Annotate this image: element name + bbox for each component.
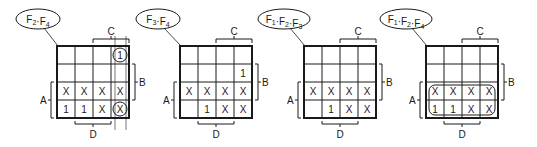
cell-3-3: X	[486, 104, 493, 115]
cell-3-1: 1	[450, 104, 456, 115]
kmap-diagram: F2·F41XXXX11XXCBADF3·F41XXXX1XXCBADF1·F2…	[0, 0, 537, 147]
cell-2-1: X	[328, 86, 335, 97]
cell-2-3: X	[117, 86, 124, 97]
b-brace	[132, 64, 138, 100]
cell-2-3: X	[364, 86, 371, 97]
kmap-4: F1·F2·F4XXXX11XXCBAD	[380, 9, 515, 140]
title-leader	[164, 28, 181, 46]
kmap-3: F1·F2·F3XXXX1XXCBAD	[258, 9, 393, 140]
d-brace	[322, 121, 358, 127]
cell-2-1: X	[204, 86, 211, 97]
cell-3-1: 1	[81, 104, 87, 115]
cell-3-2: X	[468, 104, 475, 115]
label-a: A	[409, 95, 416, 106]
kmap-2: F3·F41XXXX1XXCBAD	[136, 9, 269, 140]
label-a: A	[163, 95, 170, 106]
label-d: D	[89, 129, 96, 140]
b-brace	[379, 64, 385, 100]
c-brace	[216, 36, 252, 43]
d-brace	[198, 121, 234, 127]
label-a: A	[40, 95, 47, 106]
label-b: B	[386, 77, 393, 88]
cell-2-2: X	[222, 86, 229, 97]
label-b: B	[508, 77, 515, 88]
label-d: D	[458, 129, 465, 140]
cell-2-0: X	[186, 86, 193, 97]
cell-3-0: 1	[432, 104, 438, 115]
title-leader	[412, 28, 427, 46]
a-brace	[417, 82, 423, 118]
cell-3-3: X	[117, 104, 124, 115]
c-brace	[462, 36, 498, 43]
label-a: A	[287, 95, 294, 106]
b-brace	[255, 64, 261, 100]
cell-3-3: X	[364, 104, 371, 115]
title-leader	[290, 28, 305, 46]
label-c: C	[354, 26, 361, 37]
label-c: C	[230, 26, 237, 37]
cell-3-0: 1	[63, 104, 69, 115]
label-d: D	[336, 129, 343, 140]
cell-3-2: X	[346, 104, 353, 115]
cell-2-0: X	[432, 86, 439, 97]
b-brace	[501, 64, 507, 100]
cell-3-1: 1	[204, 104, 210, 115]
cell-3-1: 1	[328, 104, 334, 115]
cell-3-2: X	[222, 104, 229, 115]
cell-2-1: X	[81, 86, 88, 97]
cell-2-3: X	[486, 86, 493, 97]
title-leader	[44, 28, 58, 46]
c-brace	[93, 36, 129, 43]
cell-2-3: X	[240, 86, 247, 97]
cell-1-3: 1	[240, 68, 246, 79]
a-brace	[171, 82, 177, 118]
label-c: C	[107, 26, 114, 37]
label-b: B	[262, 77, 269, 88]
cell-0-3: 1	[117, 50, 123, 61]
a-brace	[295, 82, 301, 118]
cell-2-2: X	[346, 86, 353, 97]
cell-2-0: X	[310, 86, 317, 97]
a-brace	[48, 82, 54, 118]
d-brace	[75, 121, 111, 127]
cell-2-1: X	[450, 86, 457, 97]
label-b: B	[139, 77, 146, 88]
cell-2-2: X	[468, 86, 475, 97]
map-title: F3·F4	[146, 14, 169, 28]
cell-3-2: X	[99, 104, 106, 115]
cell-2-0: X	[63, 86, 70, 97]
c-brace	[340, 36, 376, 43]
label-d: D	[212, 129, 219, 140]
cell-2-2: X	[99, 86, 106, 97]
map-title: F2·F4	[26, 14, 49, 28]
kmap-1: F2·F41XXXX11XXCBAD	[16, 9, 146, 140]
label-c: C	[476, 26, 483, 37]
d-brace	[444, 121, 480, 127]
cell-3-3: X	[240, 104, 247, 115]
